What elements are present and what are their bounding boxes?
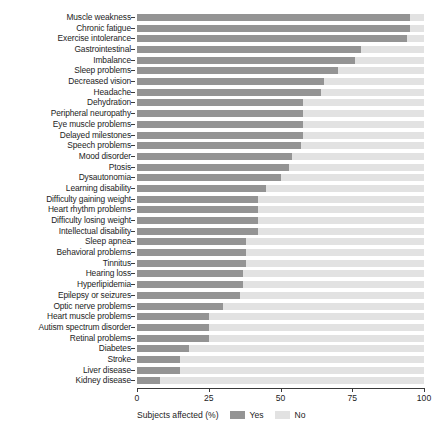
bar-row[interactable] [137,130,424,141]
legend-entry-yes[interactable]: Yes [230,410,264,420]
bar-segment-yes [137,14,410,21]
category-label: Hearing loss [86,268,131,279]
category-label: Headache [94,87,131,98]
category-tick [131,273,135,274]
bar-row[interactable] [137,194,424,205]
category-label: Dysautonomia [79,172,131,183]
category-tick [131,295,135,296]
bar-segment-no [137,25,424,32]
category-label-row: Mood disorder [0,151,131,162]
bar-row[interactable] [137,76,424,87]
category-label-row: Heart rhythm problems [0,204,131,215]
bar-segment-no [137,238,424,245]
x-axis-title: Subjects affected (%) [137,410,219,420]
bar-row[interactable] [137,311,424,322]
category-label: Stroke [107,354,131,365]
bar-segment-yes [137,132,303,139]
category-label: Exercise intolerance [58,33,131,44]
bar-row[interactable] [137,301,424,312]
legend-label-no: No [295,410,306,420]
category-label-row: Headache [0,87,131,98]
category-tick [131,380,135,381]
bar-row[interactable] [137,375,424,386]
bar-segment-yes [137,228,258,235]
bar-segment-yes [137,174,281,181]
category-tick [131,38,135,39]
bar-row[interactable] [137,119,424,130]
bar-row[interactable] [137,151,424,162]
bar-segment-no [137,335,424,342]
bar-row[interactable] [137,354,424,365]
bar-row[interactable] [137,279,424,290]
bar-row[interactable] [137,23,424,34]
bar-segment-no [137,260,424,267]
category-tick [131,28,135,29]
bar-segment-yes [137,57,355,64]
bar-segment-no [137,196,424,203]
bar-segment-yes [137,25,410,32]
category-label-row: Diabetes [0,343,131,354]
x-tick-label: 25 [204,393,214,403]
bar-row[interactable] [137,140,424,151]
bar-row[interactable] [137,258,424,269]
category-label: Imbalance [93,55,131,66]
bar-segment-no [137,367,424,374]
bar-row[interactable] [137,12,424,23]
bar-row[interactable] [137,247,424,258]
bar-row[interactable] [137,343,424,354]
bar-row[interactable] [137,97,424,108]
bar-segment-yes [137,164,289,171]
category-label-row: Gastrointestinal [0,44,131,55]
bar-segment-no [137,174,424,181]
bar-segment-yes [137,121,303,128]
bar-segment-yes [137,238,246,245]
bar-segment-no [137,89,424,96]
category-label: Sleep apnea [85,236,131,247]
category-tick [131,252,135,253]
category-tick [131,177,135,178]
bar-segment-no [137,35,424,42]
bar-row[interactable] [137,108,424,119]
category-label-row: Eye muscle problems [0,119,131,130]
bar-row[interactable] [137,183,424,194]
category-tick [131,167,135,168]
category-tick [131,156,135,157]
bar-row[interactable] [137,226,424,237]
bar-segment-no [137,99,424,106]
bar-row[interactable] [137,236,424,247]
category-label: Muscle weakness [66,12,131,23]
bar-segment-yes [137,153,292,160]
bar-row[interactable] [137,333,424,344]
bar-row[interactable] [137,204,424,215]
category-tick [131,188,135,189]
legend-entry-no[interactable]: No [275,410,306,420]
category-label: Heart rhythm problems [48,204,131,215]
bar-row[interactable] [137,290,424,301]
category-label-row: Stroke [0,354,131,365]
bar-row[interactable] [137,322,424,333]
bar-row[interactable] [137,65,424,76]
category-label: Gastrointestinal [74,44,131,55]
bar-row[interactable] [137,33,424,44]
category-label: Learning disability [66,183,131,194]
bar-row[interactable] [137,215,424,226]
bar-row[interactable] [137,365,424,376]
category-label-row: Dehydration [0,97,131,108]
category-label: Tinnitus [103,258,131,269]
category-label: Optic nerve problems [53,301,131,312]
bar-segment-no [137,121,424,128]
bar-row[interactable] [137,172,424,183]
bar-segment-yes [137,35,407,42]
category-label-row: Imbalance [0,55,131,66]
bar-row[interactable] [137,55,424,66]
bar-segment-yes [137,78,324,85]
bar-row[interactable] [137,44,424,55]
bar-row[interactable] [137,87,424,98]
bar-segment-no [137,249,424,256]
bar-row[interactable] [137,268,424,279]
bar-segment-yes [137,206,258,213]
bar-row[interactable] [137,162,424,173]
bar-segment-yes [137,185,266,192]
bar-segment-yes [137,99,303,106]
bar-segment-no [137,356,424,363]
